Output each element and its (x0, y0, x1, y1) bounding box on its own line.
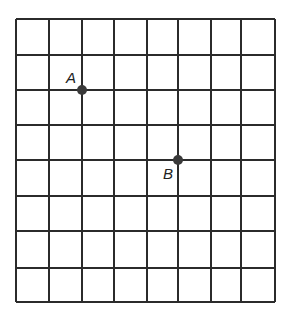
grid-lines (16, 19, 275, 302)
point-a-dot (77, 85, 87, 95)
point-b-label: B (163, 165, 173, 182)
point-a-label: A (65, 69, 76, 86)
point-b-dot (173, 155, 183, 165)
coordinate-grid: AB (0, 0, 289, 318)
